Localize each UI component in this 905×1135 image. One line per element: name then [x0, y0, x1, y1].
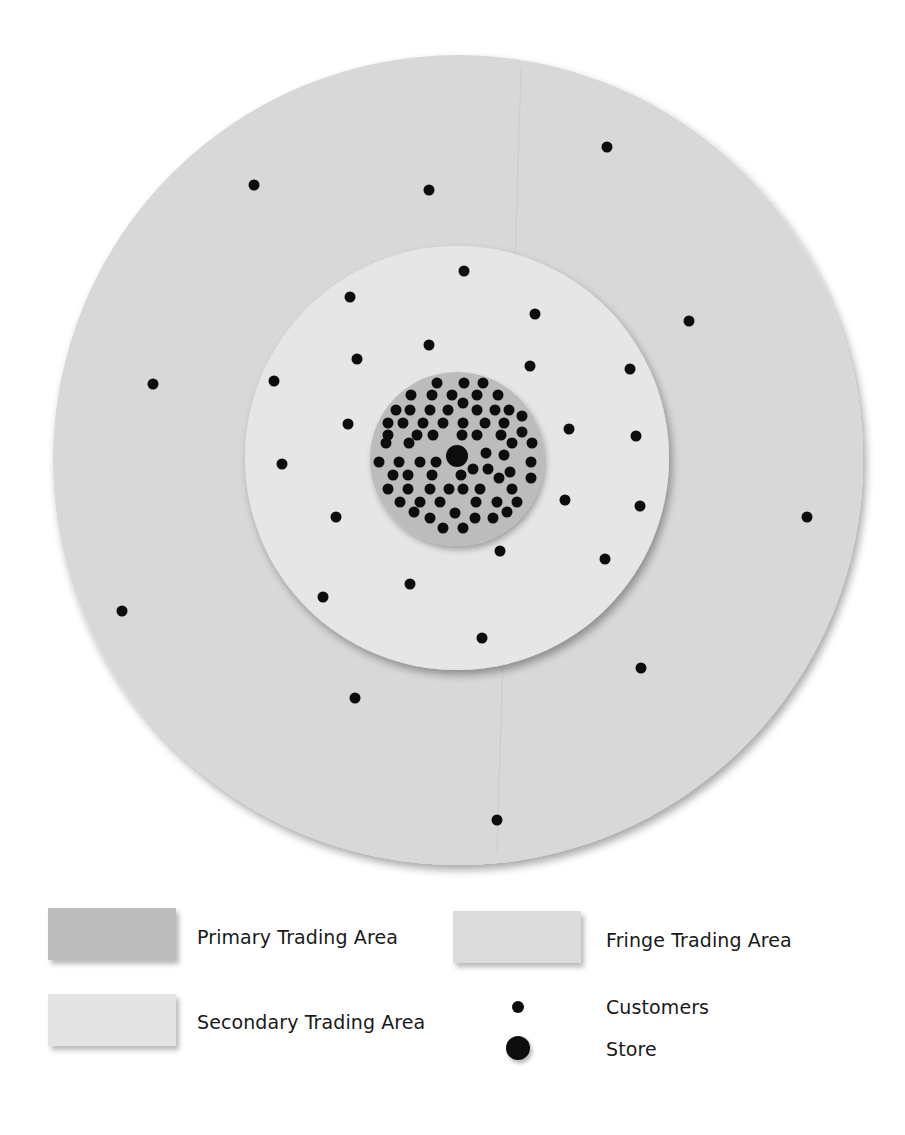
legend-label-primary: Primary Trading Area	[197, 926, 398, 948]
customer-dot-primary	[504, 405, 515, 416]
customer-dot-primary	[496, 430, 507, 441]
customer-dot-primary	[404, 438, 415, 449]
customer-dot-primary	[374, 457, 385, 468]
customer-dot-primary	[428, 430, 439, 441]
legend-swatch-secondary	[48, 994, 176, 1046]
customer-dot-secondary	[459, 266, 470, 277]
customer-dot-secondary	[424, 340, 435, 351]
customer-dot-primary	[388, 470, 399, 481]
customer-dot-primary	[425, 405, 436, 416]
customer-dot-primary	[431, 457, 442, 468]
customer-dot-primary	[472, 390, 483, 401]
customer-dot-primary	[502, 507, 513, 518]
customer-dot-primary	[438, 523, 449, 534]
customer-dot-primary	[415, 497, 426, 508]
customer-dot-primary	[412, 430, 423, 441]
customer-dot-primary	[444, 484, 455, 495]
customer-dot-primary	[472, 405, 483, 416]
trading-area-diagram	[0, 0, 905, 880]
legend-label-fringe: Fringe Trading Area	[606, 929, 792, 951]
customer-dot-primary	[409, 507, 420, 518]
legend-label-secondary: Secondary Trading Area	[197, 1011, 425, 1033]
customer-dot-secondary	[530, 309, 541, 320]
customer-dot-fringe	[602, 142, 613, 153]
customer-dot-secondary	[631, 431, 642, 442]
customer-dot-primary	[443, 405, 454, 416]
customer-dot-fringe	[249, 180, 260, 191]
customer-dot-primary	[490, 405, 501, 416]
customer-dot-primary	[395, 497, 406, 508]
customer-dot-primary	[398, 418, 409, 429]
customer-dot-fringe	[350, 693, 361, 704]
customer-dot-primary	[457, 430, 468, 441]
customer-dot-secondary	[277, 459, 288, 470]
customer-dot-secondary	[600, 554, 611, 565]
customer-dot-primary	[507, 438, 518, 449]
customer-dot-primary	[427, 390, 438, 401]
customer-dot-primary	[391, 405, 402, 416]
customer-dot-primary	[468, 464, 479, 475]
customer-dot-primary	[493, 390, 504, 401]
customer-dot-primary	[480, 418, 491, 429]
customer-dot-secondary	[352, 354, 363, 365]
customer-dot-primary	[405, 405, 416, 416]
customer-dot-secondary	[331, 512, 342, 523]
customer-dot-fringe	[148, 379, 159, 390]
customer-dot-fringe	[636, 663, 647, 674]
customer-dot-primary	[483, 464, 494, 475]
customer-dot-primary	[471, 497, 482, 508]
legend-swatch-fringe	[453, 911, 581, 963]
store-marker	[446, 445, 468, 467]
customer-dot-primary	[517, 411, 528, 422]
customer-dot-primary	[492, 497, 503, 508]
customer-dot-secondary	[625, 364, 636, 375]
customer-dot-primary	[403, 484, 414, 495]
customer-dot-icon	[512, 1001, 524, 1013]
customer-dot-primary	[488, 513, 499, 524]
customer-dot-secondary	[405, 579, 416, 590]
customer-dot-primary	[427, 470, 438, 481]
customer-dot-primary	[418, 418, 429, 429]
customer-dot-secondary	[495, 546, 506, 557]
customer-dot-primary	[527, 438, 538, 449]
customer-dot-primary	[475, 484, 486, 495]
customer-dot-primary	[383, 418, 394, 429]
customer-dot-primary	[447, 390, 458, 401]
customer-dot-primary	[478, 378, 489, 389]
customer-dot-fringe	[802, 512, 813, 523]
customer-dot-primary	[458, 523, 469, 534]
customer-dot-primary	[415, 457, 426, 468]
customer-dot-primary	[394, 457, 405, 468]
customer-dot-primary	[406, 390, 417, 401]
customer-dot-fringe	[492, 815, 503, 826]
customer-dot-primary	[526, 457, 537, 468]
customer-dot-secondary	[564, 424, 575, 435]
customer-dot-primary	[425, 513, 436, 524]
store-dot-icon	[506, 1036, 530, 1060]
customer-dot-primary	[526, 473, 537, 484]
customer-dot-fringe	[424, 185, 435, 196]
customer-dot-primary	[505, 467, 516, 478]
customer-dot-primary	[450, 508, 461, 519]
customer-dot-primary	[403, 470, 414, 481]
customer-dot-primary	[472, 430, 483, 441]
customer-dot-primary	[381, 438, 392, 449]
legend-swatch-primary	[48, 908, 176, 960]
customer-dot-primary	[512, 497, 523, 508]
customer-dot-primary	[456, 470, 467, 481]
legend-label-store: Store	[606, 1038, 657, 1060]
customer-dot-primary	[507, 484, 518, 495]
customer-dot-primary	[517, 427, 528, 438]
customer-dot-primary	[458, 418, 469, 429]
customer-dot-primary	[425, 484, 436, 495]
customer-dot-fringe	[117, 606, 128, 617]
customer-dot-primary	[432, 378, 443, 389]
customer-dot-primary	[458, 484, 469, 495]
customer-dot-secondary	[635, 501, 646, 512]
customer-dot-primary	[458, 398, 469, 409]
customer-dot-primary	[499, 450, 510, 461]
customer-dot-secondary	[525, 361, 536, 372]
customer-dot-secondary	[343, 419, 354, 430]
customer-dot-primary	[494, 473, 505, 484]
customer-dot-primary	[481, 448, 492, 459]
